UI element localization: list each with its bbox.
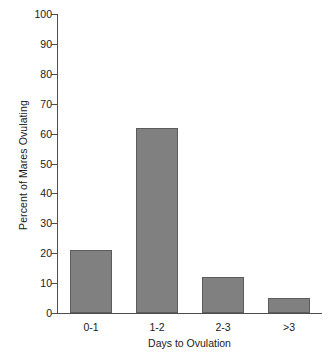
y-tick-mark <box>51 74 57 75</box>
y-tick-label: 10 <box>26 278 52 288</box>
x-tick-label: 2-3 <box>190 321 256 333</box>
y-tick-mark <box>51 223 57 224</box>
y-tick-label: 20 <box>26 248 52 258</box>
y-tick-mark <box>51 164 57 165</box>
bar-chart: Percent of Mares Ovulating 0102030405060… <box>0 0 328 354</box>
y-tick-label: 70 <box>26 99 52 109</box>
bar <box>268 298 310 313</box>
y-tick-label: 80 <box>26 69 52 79</box>
y-tick-label: 40 <box>26 188 52 198</box>
y-tick-mark <box>51 313 57 314</box>
x-axis-line <box>57 313 322 314</box>
y-tick-label: 90 <box>26 39 52 49</box>
bar <box>136 128 178 313</box>
bar <box>70 250 112 313</box>
y-tick-mark <box>51 253 57 254</box>
x-tick-label: 1-2 <box>124 321 190 333</box>
y-tick-mark <box>51 44 57 45</box>
bar <box>202 277 244 313</box>
x-tick-label: 0-1 <box>58 321 124 333</box>
x-tick-label: >3 <box>256 321 322 333</box>
y-tick-mark <box>51 134 57 135</box>
y-tick-label: 60 <box>26 129 52 139</box>
y-tick-mark <box>51 104 57 105</box>
y-tick-mark <box>51 14 57 15</box>
y-axis-ticks: 0102030405060708090100 <box>25 0 52 354</box>
y-tick-label: 50 <box>26 159 52 169</box>
y-tick-label: 100 <box>26 9 52 19</box>
plot-area <box>58 14 322 313</box>
y-tick-mark <box>51 283 57 284</box>
y-tick-mark <box>51 193 57 194</box>
x-axis-title: Days to Ovulation <box>57 337 322 349</box>
y-tick-label: 30 <box>26 218 52 228</box>
y-tick-label: 0 <box>26 308 52 318</box>
